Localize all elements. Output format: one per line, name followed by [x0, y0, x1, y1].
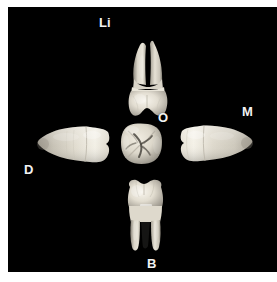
tooth-occlusal-illustration — [116, 119, 168, 169]
label-distal: D — [24, 163, 33, 176]
label-lingual: Li — [99, 16, 111, 29]
label-occlusal: O — [158, 111, 168, 124]
tooth-lingual-view — [120, 37, 176, 117]
tooth-mesial-illustration — [176, 119, 256, 169]
tooth-distal-illustration — [34, 120, 114, 170]
tooth-mesial-view — [176, 119, 256, 169]
figure-plate: Li M O D B — [8, 7, 277, 272]
label-buccal: B — [147, 257, 156, 270]
tooth-distal-view — [34, 120, 114, 170]
tooth-occlusal-view — [116, 119, 168, 169]
tooth-buccal-illustration — [118, 175, 174, 255]
tooth-buccal-view — [118, 175, 174, 255]
label-mesial: M — [242, 105, 253, 118]
tooth-lingual-illustration — [120, 37, 176, 117]
